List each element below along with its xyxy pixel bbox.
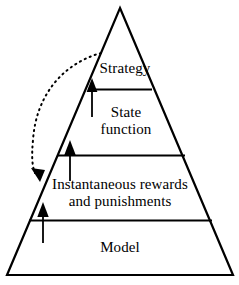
tier-label-strategy: Strategy — [79, 60, 171, 77]
pyramid-diagram: Strategy State function Instantaneous re… — [0, 0, 239, 285]
tier-label-state-function: State function — [62, 104, 190, 138]
tier-label-model: Model — [60, 239, 180, 256]
tier-label-instantaneous-rewards-and-punishments: Instantaneous rewards and punishments — [22, 176, 218, 210]
pyramid-outline — [7, 8, 233, 275]
